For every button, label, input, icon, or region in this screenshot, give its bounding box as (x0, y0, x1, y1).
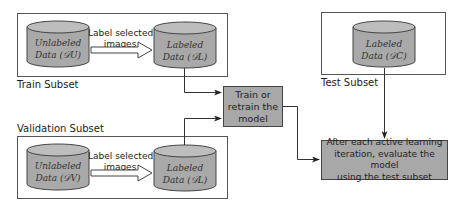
validation-label-arrow-icon (91, 165, 152, 181)
connector-lines (0, 0, 463, 206)
validation-to-model-arrow (185, 119, 222, 146)
train-to-model-arrow (185, 68, 222, 93)
model-to-evaluate-arrow (283, 107, 319, 160)
train-label-arrow-icon (91, 42, 152, 58)
